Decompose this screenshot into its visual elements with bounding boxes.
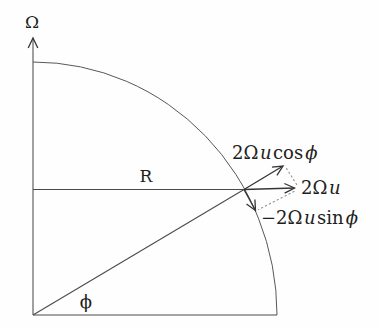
latitude-angle-label: ϕ <box>80 291 92 312</box>
quarter-circle-arc <box>33 62 277 315</box>
radius-r-label: R <box>140 166 154 186</box>
coriolis-vector-tangential-component <box>244 190 256 211</box>
radial-angle: ϕ <box>305 142 317 163</box>
coriolis-decomposition-figure: Ω R ϕ 2Ωucosϕ 2Ωu −2Ωusinϕ <box>0 0 380 328</box>
tangential-func: sin <box>317 207 344 228</box>
tangential-component-label: −2Ωusinϕ <box>261 207 358 228</box>
tangential-var: u <box>304 207 316 228</box>
radial-coef: 2Ω <box>232 142 258 163</box>
tangential-coef: −2Ω <box>261 207 302 228</box>
tangential-angle: ϕ <box>346 207 358 228</box>
full-coef: 2Ω <box>301 177 327 198</box>
omega-axis-label: Ω <box>25 12 39 32</box>
radial-func: cos <box>273 142 303 163</box>
projection-dotted-line-upper <box>287 169 298 186</box>
full-var: u <box>329 177 341 198</box>
latitude-radius-line <box>33 190 244 316</box>
diagram-svg: Ω R ϕ 2Ωucosϕ 2Ωu −2Ωusinϕ <box>0 0 380 328</box>
full-vector-label: 2Ωu <box>301 177 340 198</box>
radial-var: u <box>260 142 272 163</box>
coriolis-vector-radial-component <box>244 166 283 190</box>
coriolis-vector-full <box>244 188 295 190</box>
radial-component-label: 2Ωucosϕ <box>232 142 317 163</box>
